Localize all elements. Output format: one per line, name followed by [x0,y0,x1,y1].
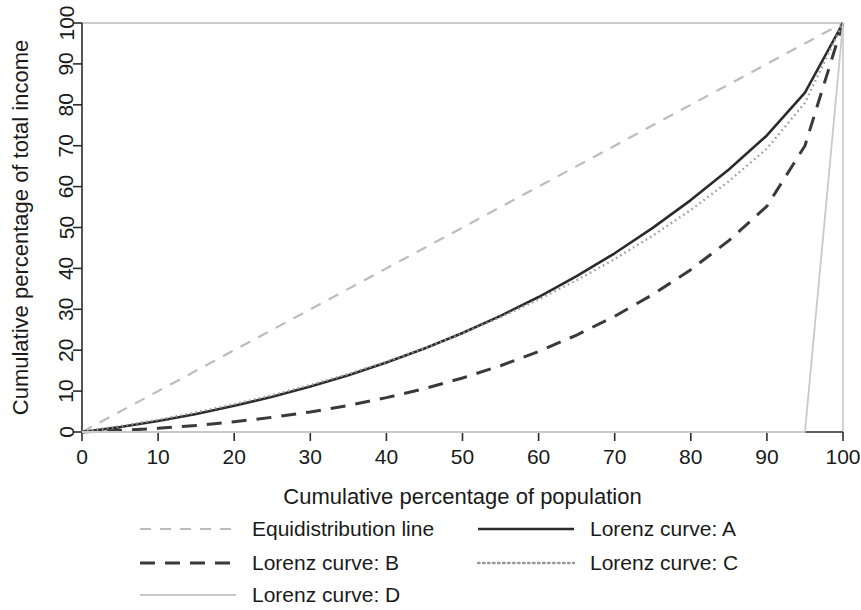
legend-label-equidistribution-line: Equidistribution line [252,517,434,540]
legend-label-lorenz-curve-d: Lorenz curve: D [252,583,400,606]
y-tick-label-50: 50 [55,216,78,239]
series-line-equidistribution-line [82,23,843,432]
y-tick-label-90: 90 [55,52,78,75]
x-axis-tick-labels: 0102030405060708090100 [76,445,860,468]
y-tick-label-40: 40 [55,257,78,280]
x-tick-label-40: 40 [375,445,398,468]
y-tick-label-100: 100 [55,5,78,40]
legend-label-lorenz-curve-b: Lorenz curve: B [252,551,399,574]
x-tick-label-90: 90 [755,445,778,468]
y-tick-label-0: 0 [55,426,78,438]
x-tick-label-30: 30 [299,445,322,468]
x-tick-label-0: 0 [76,445,88,468]
x-tick-label-70: 70 [603,445,626,468]
x-axis-title: Cumulative percentage of population [283,484,641,509]
lorenz-curve-figure: 0102030405060708090100 01020304050607080… [0,0,861,610]
chart-canvas: 0102030405060708090100 01020304050607080… [0,0,861,610]
x-tick-label-10: 10 [146,445,169,468]
y-tick-label-60: 60 [55,175,78,198]
x-axis-ticks [82,432,843,441]
y-axis-tick-labels: 0102030405060708090100 [55,5,78,437]
y-tick-label-20: 20 [55,339,78,362]
x-tick-label-50: 50 [451,445,474,468]
x-tick-label-100: 100 [825,445,860,468]
x-tick-label-60: 60 [527,445,550,468]
y-axis-title: Cumulative percentage of total income [8,40,33,415]
y-tick-label-80: 80 [55,93,78,116]
data-series-group [82,23,843,432]
chart-legend: Equidistribution lineLorenz curve: ALore… [140,517,738,606]
y-tick-label-70: 70 [55,134,78,157]
y-tick-label-10: 10 [55,379,78,402]
x-tick-label-80: 80 [679,445,702,468]
y-tick-label-30: 30 [55,298,78,321]
legend-label-lorenz-curve-c: Lorenz curve: C [590,551,738,574]
x-tick-label-20: 20 [223,445,246,468]
legend-label-lorenz-curve-a: Lorenz curve: A [590,517,736,540]
